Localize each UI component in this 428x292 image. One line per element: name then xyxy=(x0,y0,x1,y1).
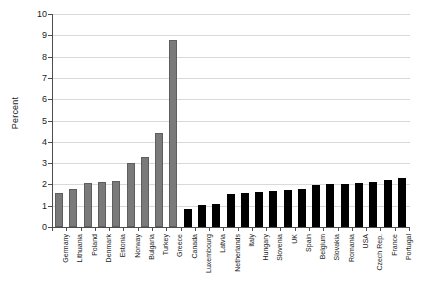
y-tick-label: 6 xyxy=(42,95,47,104)
x-tick-label: Lithuania xyxy=(76,234,84,262)
x-tick-mark xyxy=(323,228,324,231)
bar xyxy=(212,204,220,227)
x-tick-mark xyxy=(95,228,96,231)
bar xyxy=(69,189,77,227)
x-tick-mark xyxy=(280,228,281,231)
x-tick-label: Portugal xyxy=(405,234,413,260)
x-tick-mark xyxy=(380,228,381,231)
x-tick-label: Estonia xyxy=(119,234,127,257)
y-tick-label: 7 xyxy=(42,74,47,83)
x-tick-mark xyxy=(395,228,396,231)
x-tick-label: Netherlands xyxy=(234,234,242,272)
x-tick-mark xyxy=(123,228,124,231)
y-tick-label: 10 xyxy=(37,10,47,19)
bar xyxy=(398,178,406,227)
x-tick-label: USA xyxy=(362,234,370,248)
x-tick-label: Belgium xyxy=(319,234,327,259)
x-tick-mark xyxy=(209,228,210,231)
y-axis-ticks: 012345678910 xyxy=(0,0,52,228)
x-tick-label: Poland xyxy=(91,234,99,256)
x-tick-label: Turkey xyxy=(162,234,170,255)
y-tick-label: 8 xyxy=(42,53,47,62)
x-tick-mark xyxy=(66,228,67,231)
x-tick-mark xyxy=(366,228,367,231)
bar xyxy=(284,190,292,227)
bar-chart: Percent 012345678910 GermanyLithuaniaPol… xyxy=(0,0,428,292)
bar xyxy=(255,192,263,227)
x-tick-mark xyxy=(195,228,196,231)
x-tick-label: Luxembourg xyxy=(205,234,213,273)
x-tick-mark xyxy=(166,228,167,231)
bar-series xyxy=(52,14,409,227)
x-tick-label: Germany xyxy=(62,234,70,263)
x-tick-mark xyxy=(109,228,110,231)
bar xyxy=(298,189,306,227)
x-tick-label: UK xyxy=(291,234,299,244)
x-tick-label: France xyxy=(391,234,399,256)
x-tick-label: Italy xyxy=(248,234,256,247)
y-tick-label: 5 xyxy=(42,117,47,126)
x-tick-label: Denmark xyxy=(105,234,113,262)
x-tick-mark xyxy=(309,228,310,231)
y-tick-label: 4 xyxy=(42,138,47,147)
x-tick-label: Slovakia xyxy=(333,234,341,260)
bar xyxy=(269,191,277,227)
x-tick-label: Canada xyxy=(191,234,199,259)
x-tick-mark xyxy=(138,228,139,231)
x-tick-label: Latvia xyxy=(219,234,227,253)
x-tick-mark xyxy=(295,228,296,231)
x-tick-label: Hungary xyxy=(262,234,270,260)
x-tick-label: Romania xyxy=(348,234,356,262)
y-tick-label: 2 xyxy=(42,180,47,189)
y-tick-label: 3 xyxy=(42,159,47,168)
x-tick-mark xyxy=(223,228,224,231)
bar xyxy=(198,205,206,227)
y-tick-label: 0 xyxy=(42,223,47,232)
x-tick-mark xyxy=(181,228,182,231)
bar xyxy=(384,180,392,227)
bar xyxy=(355,183,363,227)
x-tick-mark xyxy=(352,228,353,231)
x-tick-label: Bulgaria xyxy=(148,234,156,260)
x-tick-label: Czech Rep. xyxy=(376,234,384,271)
bar xyxy=(326,184,334,227)
x-tick-mark xyxy=(152,228,153,231)
bar xyxy=(341,184,349,227)
bar xyxy=(155,133,163,227)
bar xyxy=(312,185,320,227)
x-tick-mark xyxy=(409,228,410,231)
x-axis-labels: GermanyLithuaniaPolandDenmarkEstoniaNorw… xyxy=(52,228,409,292)
bar xyxy=(98,182,106,227)
bar xyxy=(184,209,192,227)
bar xyxy=(241,193,249,227)
bar xyxy=(169,40,177,227)
x-tick-mark xyxy=(238,228,239,231)
bar xyxy=(84,183,92,227)
x-tick-mark xyxy=(266,228,267,231)
y-tick-label: 9 xyxy=(42,31,47,40)
y-tick-label: 1 xyxy=(42,202,47,211)
bar xyxy=(141,157,149,227)
x-tick-label: Norway xyxy=(134,234,142,258)
x-tick-mark xyxy=(52,228,53,231)
x-tick-mark xyxy=(338,228,339,231)
x-tick-mark xyxy=(252,228,253,231)
x-tick-label: Greece xyxy=(176,234,184,257)
x-tick-mark xyxy=(81,228,82,231)
x-tick-label: Spain xyxy=(305,234,313,252)
bar xyxy=(55,193,63,227)
bar xyxy=(127,163,135,227)
bar xyxy=(369,182,377,227)
bar xyxy=(227,194,235,227)
bar xyxy=(112,181,120,227)
x-tick-label: Slovenia xyxy=(276,234,284,261)
